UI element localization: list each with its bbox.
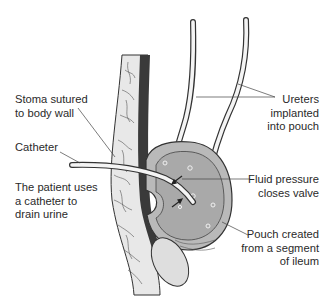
label-patient-uses-catheter: The patient uses a catheter to drain uri… (15, 181, 98, 222)
label-catheter: Catheter (15, 141, 58, 155)
label-ureters: Ureters implanted into pouch (267, 93, 319, 134)
label-stoma: Stoma sutured to body wall (15, 93, 88, 120)
kock-pouch-diagram: Stoma sutured to body wall Catheter The … (0, 0, 333, 303)
label-fluid-pressure: Fluid pressure closes valve (248, 173, 319, 200)
label-pouch: Pouch created from a segment of ileum (241, 228, 319, 269)
